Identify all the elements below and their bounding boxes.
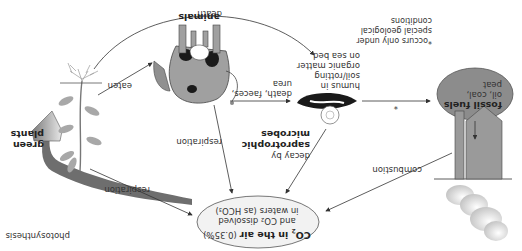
humus-label: humus in soil/rotting organic matter on …: [297, 51, 360, 91]
fossil-fuels-label: fossil fuels oil, coal, peat: [444, 80, 502, 111]
death-faeces-label: death, faeces, urea: [232, 79, 292, 99]
green-plants-label: green plants: [11, 129, 44, 151]
eaten-label: eaten: [108, 81, 132, 91]
factory-illustration: [434, 106, 512, 179]
respiration-plants-label: respiration: [104, 185, 150, 195]
combustion-arrow: [326, 153, 452, 211]
humus-illustration: [297, 93, 357, 124]
respiration-animals-arrow: [214, 105, 232, 193]
green-plant-illustration: [57, 63, 102, 174]
footnote: *occurs only under special geological co…: [356, 15, 432, 45]
death-plants-label: death: [187, 9, 212, 19]
photosynthesis-label: photosynthesis: [5, 231, 70, 241]
smoke-cloud: [446, 185, 508, 241]
carbon-cycle-diagram: CO2 in the air (0.35%) and CO₂ dissolved…: [0, 0, 522, 251]
respiration-animals-label: respiration: [176, 137, 222, 147]
co2-label: CO2 in the air (0.35%) and CO₂ dissolved…: [202, 206, 312, 241]
cow-illustration: [154, 25, 238, 105]
asterisk-label: *: [394, 101, 398, 111]
decay-microbes-label: decay by saprotrophic microbes: [242, 129, 310, 161]
combustion-label: combustion: [372, 165, 422, 175]
